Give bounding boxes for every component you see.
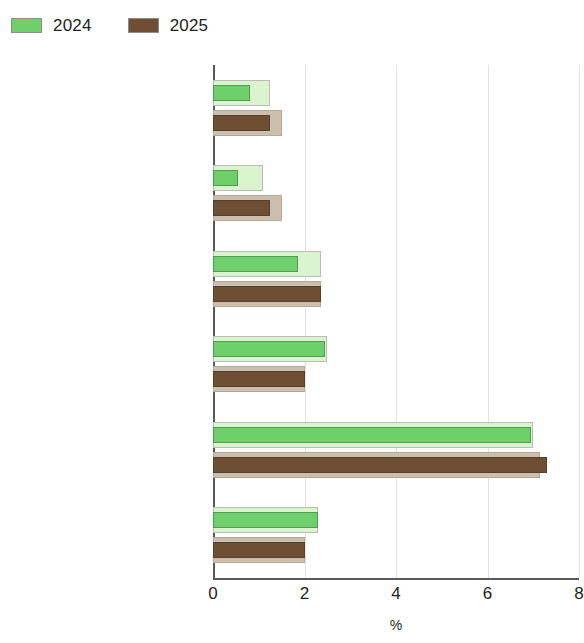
legend-swatch-2024 — [11, 18, 42, 33]
chart-category-row: Mongolia — [213, 407, 579, 493]
bar-2024 — [213, 427, 531, 443]
bar-2025 — [213, 200, 270, 216]
bar-2024 — [213, 256, 298, 272]
chart-category-row: East Asia — [213, 65, 579, 151]
bar-2025 — [213, 115, 270, 131]
legend-label-2024: 2024 — [53, 17, 92, 34]
chart-category-row: People’s Republic of China — [213, 151, 579, 237]
x-tick-label: 4 — [391, 584, 400, 604]
legend-swatch-2025 — [128, 18, 159, 33]
bar-2025 — [213, 457, 547, 473]
legend-label-2025: 2025 — [170, 17, 209, 34]
x-axis-line — [213, 578, 579, 580]
bar-2024 — [213, 512, 318, 528]
x-tick-label: 6 — [483, 584, 492, 604]
x-axis-title: % — [213, 617, 579, 633]
bar-2024 — [213, 170, 238, 186]
bar-2024 — [213, 85, 250, 101]
x-tick-label: 2 — [300, 584, 309, 604]
chart-legend: 2024 2025 — [0, 0, 579, 50]
x-tick-label: 8 — [574, 584, 583, 604]
chart-category-row: Taipei,China — [213, 493, 579, 579]
x-tick-label: 0 — [208, 584, 217, 604]
legend-entry-2025: 2025 — [128, 17, 209, 34]
bar-chart: East AsiaPeople’s Republic of ChinaHong … — [0, 50, 579, 643]
bar-2024 — [213, 341, 325, 357]
bar-2025 — [213, 286, 321, 302]
chart-category-row: Republic of Korea — [213, 322, 579, 408]
legend-entry-2024: 2024 — [11, 17, 92, 34]
bar-2025 — [213, 542, 305, 558]
chart-category-row: Hong Kong, China — [213, 236, 579, 322]
plot-area: East AsiaPeople’s Republic of ChinaHong … — [213, 65, 579, 578]
gridline — [579, 65, 580, 578]
bar-2025 — [213, 371, 305, 387]
